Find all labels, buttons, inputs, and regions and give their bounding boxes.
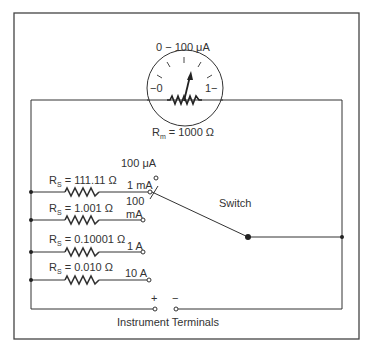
meter-resistance-label: Rm = 1000 Ω xyxy=(152,126,214,140)
terminal-plus-sign: + xyxy=(151,292,157,304)
resistor-icon xyxy=(65,248,99,256)
instrument-terminals xyxy=(153,307,178,311)
resistor-icon xyxy=(65,216,99,224)
shunt-1-range: 1 mA xyxy=(127,179,153,191)
shunt-2-label: RS = 1.001 Ω xyxy=(49,202,113,216)
terminal-minus-sign: − xyxy=(172,292,178,304)
terminals-label: Instrument Terminals xyxy=(117,316,219,328)
contact-10A xyxy=(147,278,151,282)
shunt-1-label: RS = 111.11 Ω xyxy=(49,174,117,188)
meter-range-label: 0 − 100 μA xyxy=(156,41,210,53)
shunt-4-range: 10 A xyxy=(125,267,148,279)
resistor-icon xyxy=(65,188,99,196)
ammeter-circuit-diagram: 0 − 100 μA −0 1− Rm = 1000 Ω xyxy=(0,0,369,351)
shunt-3-range: 1 A xyxy=(127,240,144,252)
shunt-3-label: RS = 0.10001 Ω xyxy=(49,233,125,247)
switch-range-100uA: 100 μA xyxy=(121,157,157,169)
switch-label: Switch xyxy=(219,197,251,209)
resistor-icon xyxy=(65,276,99,284)
contact-100uA xyxy=(154,176,158,180)
terminal-negative xyxy=(174,307,178,311)
shunt-2-range-line1: 100 xyxy=(126,195,144,207)
meter-scale-one: 1− xyxy=(205,82,218,94)
meter-scale-zero: −0 xyxy=(150,82,163,94)
shunt-4-label: RS = 0.010 Ω xyxy=(49,261,113,275)
terminal-positive xyxy=(153,307,157,311)
shunt-2-range-line2: mA xyxy=(126,208,143,220)
